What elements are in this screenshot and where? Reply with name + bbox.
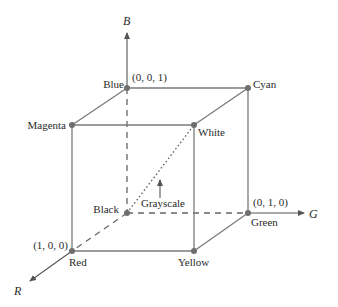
vertex-cyan-label: Cyan [253,78,277,90]
vertex-dots [69,85,251,254]
vertex-blue-dot [124,85,130,91]
rgb-cube-diagram: B G R Blue (0, 0, 1) Cyan Magenta White … [0,0,338,307]
axis-b-label: B [123,14,131,28]
vertex-green-coord: (0, 1, 0) [253,196,288,209]
axis-r-label: R [13,284,22,298]
vertex-white-label: White [198,126,225,138]
vertex-yellow-label: Yellow [178,256,209,268]
vertex-red-coord: (1, 0, 0) [33,239,68,252]
axes [30,33,304,281]
vertex-blue-coord: (0, 0, 1) [132,71,167,84]
vertex-black-dot [124,210,130,216]
vertex-green-label: Green [251,216,278,228]
axis-r [30,251,72,281]
edge-cyan-white [194,88,248,125]
vertex-red-dot [69,248,75,254]
vertex-blue-label: Blue [103,78,124,90]
edge-black-red [72,213,127,251]
vertex-cyan-dot [245,85,251,91]
vertex-black-label: Black [93,203,119,215]
hidden-edges [72,88,248,251]
vertex-white-dot [191,122,197,128]
vertex-red-label: Red [69,256,87,268]
visible-edges [72,88,248,251]
vertex-magenta-dot [69,122,75,128]
edge-blue-magenta [72,88,127,125]
grayscale-label: Grayscale [141,197,185,209]
edge-green-yellow [194,213,248,251]
vertex-yellow-dot [191,248,197,254]
vertex-magenta-label: Magenta [28,119,67,131]
axis-g-label: G [309,207,318,221]
